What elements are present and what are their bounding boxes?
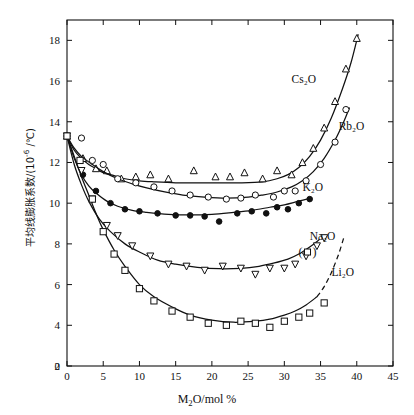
data-point-circle-open — [205, 194, 211, 200]
x-axis-title: M2O/mol % — [0, 392, 414, 408]
data-point-triangle-up — [227, 173, 234, 180]
x-tick-label: 0 — [64, 370, 70, 382]
y-axis-unit: /(10-6 /℃) — [25, 128, 36, 177]
data-point-circle-open — [115, 176, 121, 182]
data-point-circle-filled — [202, 214, 208, 220]
x-tick-label: 25 — [243, 370, 255, 382]
data-point-circle-open — [238, 195, 244, 201]
series-CsO: Cs₂O — [64, 34, 361, 183]
data-point-circle-filled — [296, 200, 302, 206]
series-label: K₂O — [302, 181, 323, 193]
data-point-square-open — [136, 286, 142, 292]
data-point-circle-filled — [234, 211, 240, 217]
data-point-square-open — [267, 324, 273, 330]
data-point-triangle-up — [212, 173, 219, 180]
data-point-triangle-down — [252, 271, 259, 278]
series-label: Cs₂O — [292, 73, 316, 85]
data-point-square-open — [252, 320, 258, 326]
y-tick-label: 14 — [49, 116, 61, 128]
y-tick-label: 18 — [49, 34, 61, 46]
x-tick-label: 45 — [388, 370, 400, 382]
y-axis-title: 平均线膨胀系数/(10-6 /℃) — [22, 113, 37, 263]
y-tick-label: 16 — [49, 75, 61, 87]
series-label: Na₂O — [310, 230, 336, 242]
y-origin-label: 0 — [55, 360, 61, 372]
expansion-coefficient-plot: 051015202530354045246810121416180Cs₂ORb₂… — [0, 0, 414, 415]
data-point-circle-open — [151, 184, 157, 190]
data-point-triangle-down — [292, 261, 299, 268]
legend-paren-left: ( — [299, 245, 303, 259]
data-point-circle-filled — [187, 213, 193, 219]
data-point-square-open — [89, 196, 95, 202]
data-point-circle-open — [187, 192, 193, 198]
data-point-circle-filled — [263, 211, 269, 217]
data-point-circle-open — [332, 139, 338, 145]
data-point-triangle-up — [132, 173, 139, 180]
data-point-triangle-up — [259, 175, 266, 182]
data-point-square-open — [169, 308, 175, 314]
x-tick-label: 5 — [100, 370, 106, 382]
data-point-triangle-up — [147, 171, 154, 178]
x-tick-label: 10 — [134, 370, 146, 382]
data-point-triangle-up — [274, 167, 281, 174]
data-point-triangle-up — [165, 175, 172, 182]
legend-paren-right: ) — [313, 245, 317, 259]
data-point-circle-filled — [122, 206, 128, 212]
data-point-square-open — [122, 267, 128, 273]
data-point-circle-filled — [285, 206, 291, 212]
legend-square-icon — [305, 249, 311, 255]
data-point-circle-filled — [173, 213, 179, 219]
data-point-square-open — [187, 314, 193, 320]
data-point-triangle-down — [266, 265, 273, 272]
data-point-circle-filled — [93, 188, 99, 194]
data-point-circle-open — [133, 180, 139, 186]
data-point-triangle-up — [190, 167, 197, 174]
series-NaO: Na₂O — [64, 133, 336, 278]
series-label: Li₂O — [331, 266, 354, 278]
data-point-circle-open — [169, 188, 175, 194]
series-curve — [67, 136, 312, 215]
data-point-square-open — [100, 229, 106, 235]
data-point-circle-filled — [137, 209, 143, 215]
series-curve — [67, 34, 358, 183]
data-point-square-open — [321, 300, 327, 306]
series-curve — [67, 136, 319, 269]
x-tick-label: 20 — [206, 370, 218, 382]
data-point-circle-open — [78, 135, 84, 141]
y-tick-label: 6 — [55, 279, 61, 291]
data-point-circle-open — [317, 161, 323, 167]
data-point-circle-filled — [108, 200, 114, 206]
data-point-circle-open — [89, 157, 95, 163]
data-point-circle-open — [252, 192, 258, 198]
data-point-square-open — [77, 157, 83, 163]
data-point-square-open — [223, 322, 229, 328]
data-point-triangle-up — [353, 35, 360, 42]
data-point-circle-filled — [155, 211, 161, 217]
data-point-triangle-down — [201, 267, 208, 274]
data-point-triangle-up — [241, 169, 248, 176]
x-tick-label: 35 — [315, 370, 327, 382]
y-tick-label: 4 — [55, 319, 61, 331]
data-point-circle-open — [100, 161, 106, 167]
x-tick-label: 15 — [170, 370, 182, 382]
x-tick-label: 40 — [351, 370, 363, 382]
data-point-triangle-down — [281, 265, 288, 272]
data-point-triangle-down — [165, 261, 172, 268]
data-point-square-open — [111, 251, 117, 257]
series-KO: K₂O — [64, 133, 323, 224]
data-point-circle-filled — [274, 204, 280, 210]
data-point-circle-filled — [249, 209, 255, 215]
data-point-square-open — [64, 133, 70, 139]
data-point-square-open — [307, 310, 313, 316]
data-point-circle-open — [343, 106, 349, 112]
x-tick-label: 30 — [279, 370, 291, 382]
data-point-square-open — [296, 314, 302, 320]
data-point-circle-open — [223, 196, 229, 202]
y-tick-label: 10 — [49, 197, 61, 209]
y-axis-title-text: 平均线膨胀系数 — [25, 177, 36, 247]
chart-figure: 051015202530354045246810121416180Cs₂ORb₂… — [0, 0, 414, 415]
data-point-square-open — [205, 320, 211, 326]
data-point-square-open — [151, 298, 157, 304]
series-label: Rb₂O — [339, 120, 365, 132]
data-point-triangle-up — [342, 65, 349, 72]
